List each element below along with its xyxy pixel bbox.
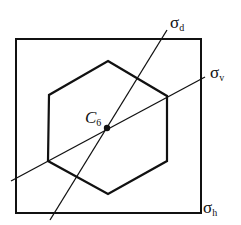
sigma-h-subscript: h: [212, 207, 217, 218]
sigma-symbol: σ: [203, 198, 212, 217]
sigma-d-subscript: d: [179, 22, 184, 33]
sigma-symbol: σ: [170, 13, 179, 32]
c6-label: C6: [85, 109, 101, 128]
sigma-v-subscript: v: [219, 72, 224, 83]
sigma-d-label: σd: [170, 14, 184, 33]
c-symbol: C: [85, 108, 96, 127]
sigma-v-label: σv: [210, 64, 224, 83]
diagram-canvas: [0, 0, 241, 225]
sigma-symbol: σ: [210, 63, 219, 82]
sigma-d-line: [50, 30, 167, 220]
symmetry-diagram: σd σv σh C6: [0, 0, 241, 225]
sigma-h-label: σh: [203, 199, 217, 218]
c6-subscript: 6: [96, 117, 101, 128]
c6-axis-point: [104, 125, 110, 131]
